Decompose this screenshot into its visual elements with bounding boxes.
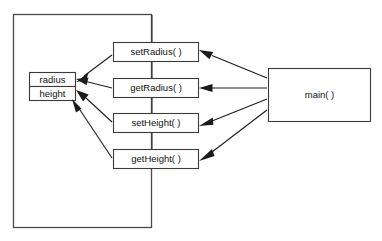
field-radius-label: radius: [40, 74, 66, 85]
arrow-main-to-setheight: [199, 99, 267, 126]
arrow-main-to-getheight: [199, 110, 267, 161]
method-setheight-label: setHeight( ): [131, 117, 180, 128]
arrow-head-main-getradius: [199, 84, 213, 92]
uml-access-diagram: radius height setRadius( ) getRadius( ) …: [0, 0, 382, 241]
field-height-label: height: [40, 88, 66, 99]
arrow-main-to-getradius: [199, 84, 267, 92]
method-getradius-label: getRadius( ): [130, 82, 182, 93]
caller-main-label: main( ): [305, 89, 335, 100]
arrow-head-main-getheight: [199, 149, 215, 161]
method-getheight-label: getHeight( ): [131, 153, 181, 164]
method-setradius-label: setRadius( ): [130, 46, 181, 57]
arrow-head-main-setradius: [199, 50, 213, 59]
diagram-canvas: radius height setRadius( ) getRadius( ) …: [0, 0, 382, 241]
arrow-main-to-setradius: [199, 50, 267, 78]
arrow-head-main-setheight: [199, 117, 213, 126]
